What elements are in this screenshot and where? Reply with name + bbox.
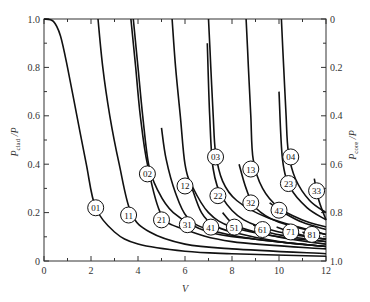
svg-text:04: 04 [286, 152, 296, 162]
svg-text:81: 81 [307, 230, 316, 240]
x-tick-label: 8 [230, 265, 235, 276]
svg-text:12: 12 [181, 181, 190, 191]
x-tick-label: 6 [183, 265, 188, 276]
y-axis-left-title: Pclad /P [9, 127, 22, 157]
y-right-tick-label: 0 [330, 14, 335, 25]
y-right-tick-label: 0.6 [330, 159, 343, 170]
y-right-tick-label: 1.0 [330, 256, 343, 267]
mode-power-chart: 02468101200.20.40.60.81.01.00.80.60.40.2… [0, 0, 370, 302]
mode-curve-22 [207, 43, 326, 239]
x-tick-label: 2 [89, 265, 94, 276]
mode-label-81: 81 [304, 226, 320, 242]
mode-label-61: 61 [255, 222, 271, 238]
mode-label-12: 12 [177, 178, 193, 194]
y-left-tick-label: 0 [35, 256, 40, 267]
svg-text:13: 13 [246, 165, 256, 175]
svg-text:41: 41 [206, 223, 215, 233]
mode-label-51: 51 [226, 219, 242, 235]
mode-label-41: 41 [203, 219, 219, 235]
svg-text:42: 42 [275, 206, 284, 216]
svg-text:23: 23 [284, 179, 294, 189]
x-tick-label: 4 [136, 265, 141, 276]
svg-text:21: 21 [157, 215, 166, 225]
svg-text:Pcore /P: Pcore /P [347, 130, 360, 161]
mode-label-03: 03 [208, 149, 224, 165]
x-tick-label: 10 [274, 265, 284, 276]
mode-labels: 01112102123103224113325104234261718133 [88, 149, 325, 242]
x-tick-label: 12 [321, 265, 331, 276]
svg-text:32: 32 [246, 198, 255, 208]
mode-label-01: 01 [88, 200, 104, 216]
mode-label-71: 71 [283, 224, 299, 240]
mode-label-33: 33 [309, 183, 325, 199]
svg-text:Pclad /P: Pclad /P [9, 127, 22, 157]
mode-label-11: 11 [121, 207, 137, 223]
y-left-tick-label: 1.0 [28, 14, 41, 25]
mode-label-04: 04 [283, 149, 299, 165]
svg-text:31: 31 [183, 220, 192, 230]
y-right-tick-label: 0.8 [330, 207, 343, 218]
mode-label-02: 02 [139, 166, 155, 182]
x-tick-label: 0 [42, 265, 47, 276]
svg-text:71: 71 [286, 227, 295, 237]
mode-label-32: 32 [243, 195, 259, 211]
y-left-tick-label: 0.2 [28, 207, 41, 218]
svg-text:01: 01 [91, 203, 100, 213]
svg-text:11: 11 [124, 211, 133, 221]
mode-label-23: 23 [280, 176, 296, 192]
svg-text:03: 03 [211, 152, 221, 162]
svg-text:61: 61 [258, 225, 267, 235]
svg-text:02: 02 [143, 169, 152, 179]
mode-label-21: 21 [154, 212, 170, 228]
svg-text:51: 51 [230, 223, 239, 233]
svg-text:33: 33 [312, 186, 322, 196]
y-left-tick-label: 0.8 [28, 62, 41, 73]
y-right-tick-label: 0.4 [330, 110, 343, 121]
y-left-tick-label: 0.6 [28, 110, 41, 121]
mode-label-42: 42 [271, 202, 287, 218]
y-left-tick-label: 0.4 [28, 159, 41, 170]
y-axis-right-title: Pcore /P [347, 130, 360, 161]
svg-text:22: 22 [213, 191, 222, 201]
mode-label-13: 13 [243, 161, 259, 177]
mode-label-22: 22 [210, 188, 226, 204]
x-axis-title: V [182, 283, 190, 294]
y-right-tick-label: 0.2 [330, 62, 343, 73]
mode-label-31: 31 [179, 217, 195, 233]
